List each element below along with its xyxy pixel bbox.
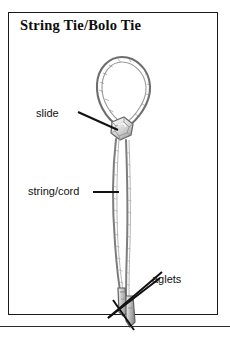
label-slide: slide xyxy=(36,107,59,119)
label-string-cord: string/cord xyxy=(28,185,79,197)
bottom-rule xyxy=(0,326,230,327)
illustration-plate: String Tie/Bolo Tie xyxy=(0,0,230,340)
page-title: String Tie/Bolo Tie xyxy=(20,17,141,34)
label-aglets: aglets xyxy=(152,273,181,285)
plate-frame xyxy=(8,12,218,315)
